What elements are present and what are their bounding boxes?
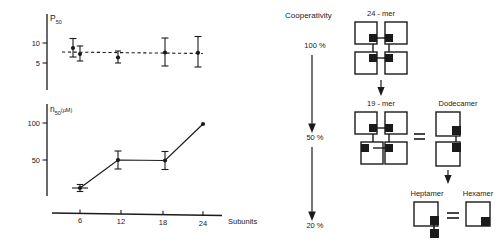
arrow-dodecamer-to-heptamer xyxy=(444,170,451,184)
diagram-label-dodecamer: Dodecamer xyxy=(439,99,478,108)
cooperativity-arrow-top xyxy=(308,55,316,133)
bottom-chart-xtick-label-18: 18 xyxy=(159,218,167,227)
diagram-label-hexamer: Hexamer xyxy=(463,189,494,198)
cooperativity-arrow-bottom xyxy=(308,147,316,221)
diagram-dodecamer xyxy=(436,112,461,166)
top-chart-datapoint-2 xyxy=(77,46,83,61)
bottom-chart-y-axis-title: n50(µM) xyxy=(50,104,72,116)
bottom-chart-y-axis-title-unit: (µM) xyxy=(61,107,73,113)
top-chart-ytick-label-10: 10 xyxy=(32,39,40,48)
bottom-chart-datapoint-4 xyxy=(201,122,205,126)
figure-svg: 10 5 P50 xyxy=(0,0,503,241)
cooperativity-label-100: 100 % xyxy=(304,41,326,50)
molecule-diagrams: 24 - mer 19 - mer xyxy=(355,9,494,238)
cooperativity-label-50: 50 % xyxy=(306,133,323,142)
cooperativity-scale: Cooperativity 100 % 50 % 20 % xyxy=(285,11,332,230)
cooperativity-title: Cooperativity xyxy=(285,11,332,20)
equals-sign-19mer-dodecamer xyxy=(414,134,425,139)
diagram-label-24mer: 24 - mer xyxy=(367,9,395,18)
top-chart-y-axis-title: P50 xyxy=(50,13,62,25)
bottom-chart-ytick-label-50: 50 xyxy=(32,156,40,165)
arrow-24mer-to-19mer xyxy=(377,80,384,96)
bottom-chart-ytick-label-100: 100 xyxy=(27,119,40,128)
top-chart-reference-line xyxy=(62,52,203,54)
top-chart-datapoint-5 xyxy=(195,37,202,68)
diagram-19mer xyxy=(355,112,407,164)
bottom-chart: 100 50 n50(µM) xyxy=(27,104,257,228)
top-chart: 10 5 P50 xyxy=(32,13,203,90)
bottom-chart-xtick-label-6: 6 xyxy=(78,216,82,225)
diagram-label-heptamer: Heptamer xyxy=(411,189,444,198)
diagram-heptamer xyxy=(414,202,439,238)
cooperativity-label-20: 20 % xyxy=(306,221,323,230)
top-chart-y-axis-title-sub: 50 xyxy=(56,19,62,25)
top-chart-datapoint-1 xyxy=(70,39,77,58)
diagram-hexamer xyxy=(466,202,490,226)
bottom-chart-xtick-label-24: 24 xyxy=(199,219,207,228)
equals-sign-heptamer-hexamer xyxy=(447,213,459,218)
diagram-24mer xyxy=(355,22,407,74)
bottom-chart-series-line xyxy=(80,124,203,188)
top-chart-datapoint-4 xyxy=(162,38,169,66)
bottom-chart-x-axis-title: Subunits xyxy=(228,217,257,226)
bottom-chart-datapoint-1 xyxy=(72,185,88,192)
bottom-chart-xtick-label-12: 12 xyxy=(117,217,125,226)
figure-root: 10 5 P50 xyxy=(0,0,503,241)
top-chart-ytick-label-5: 5 xyxy=(36,59,40,68)
diagram-label-19mer: 19 - mer xyxy=(367,99,395,108)
